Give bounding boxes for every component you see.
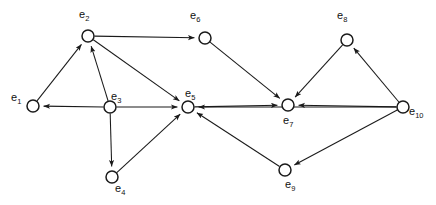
node-label-e1: e1	[11, 92, 21, 106]
node-label-e8: e8	[337, 10, 347, 24]
edge-e6-to-e7	[210, 42, 280, 98]
node-e1[interactable]	[27, 100, 39, 112]
edge-e3-to-e4	[110, 114, 112, 167]
node-label-e6: e6	[190, 10, 200, 24]
node-e10[interactable]	[397, 101, 409, 113]
edge-e4-to-e5	[117, 114, 180, 172]
edge-e10-to-e8	[354, 48, 399, 102]
edge-e9-to-e5	[197, 113, 280, 167]
graph-diagram: e1e2e3e4e5e6e7e8e9e10	[0, 0, 436, 205]
node-label-e7: e7	[283, 115, 293, 129]
node-label-e9: e9	[285, 179, 295, 193]
node-e9[interactable]	[279, 164, 291, 176]
node-label-e5: e5	[185, 88, 195, 102]
edge-e3-to-e2	[91, 46, 108, 101]
node-e7[interactable]	[282, 99, 294, 111]
node-label-e3: e3	[111, 91, 121, 105]
node-label-e2: e2	[79, 9, 89, 23]
edge-e2-to-e6	[95, 36, 195, 38]
edge-e1-to-e2	[37, 44, 81, 101]
node-e6[interactable]	[199, 32, 211, 44]
node-label-e10: e10	[409, 106, 423, 120]
edge-e3-to-e1	[44, 106, 104, 107]
node-e2[interactable]	[82, 30, 94, 42]
node-e8[interactable]	[341, 34, 353, 46]
graph-canvas	[0, 0, 436, 205]
node-e5[interactable]	[182, 101, 194, 113]
edge-e8-to-e7	[295, 45, 343, 97]
edge-e10-to-e9	[294, 110, 397, 165]
edge-e2-to-e5	[93, 40, 179, 101]
node-label-e4: e4	[115, 183, 125, 197]
edges-layer	[37, 36, 399, 172]
